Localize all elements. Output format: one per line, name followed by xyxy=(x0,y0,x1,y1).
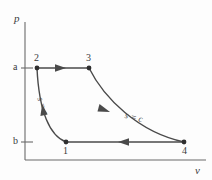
process-3-4-curve xyxy=(89,68,184,142)
state-point-1 xyxy=(64,140,69,145)
process-3-4 xyxy=(89,68,184,142)
y-axis-label: p xyxy=(14,13,20,24)
state-label-3: 3 xyxy=(86,53,91,63)
state-point-4 xyxy=(182,140,187,145)
state-label-1: 1 xyxy=(63,146,68,156)
axis-lines xyxy=(25,22,206,160)
plot-canvas xyxy=(0,0,212,180)
pv-diagram-figure: p v a b 1 2 3 4 s = c s = c xyxy=(0,0,212,180)
state-points xyxy=(35,66,187,145)
process-3-4-arrowhead xyxy=(98,104,111,112)
y-tick-label-a: a xyxy=(13,62,17,72)
process-4-1 xyxy=(66,138,184,146)
state-point-3 xyxy=(87,66,92,71)
x-axis-label: v xyxy=(195,165,200,176)
state-label-4: 4 xyxy=(182,146,187,156)
y-tick-label-b: b xyxy=(13,136,18,146)
process-2-3 xyxy=(37,64,89,72)
process-4-1-arrowhead xyxy=(118,138,129,146)
state-label-2: 2 xyxy=(34,53,39,63)
process-2-3-arrowhead xyxy=(55,64,66,72)
state-point-2 xyxy=(35,66,40,71)
y-tick-marks xyxy=(21,68,33,142)
